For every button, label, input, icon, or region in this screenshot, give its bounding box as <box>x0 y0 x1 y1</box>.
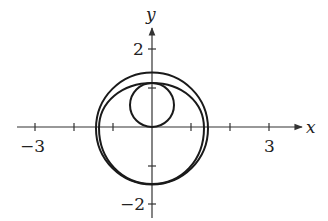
y-tick-label-neg2: −2 <box>120 194 145 214</box>
x-axis-label: x <box>306 117 316 137</box>
plot-area: x y −3 3 2 −2 <box>0 0 328 221</box>
y-axis-label: y <box>145 4 156 24</box>
y-tick-label-2: 2 <box>133 39 144 59</box>
x-tick-label-neg3: −3 <box>20 136 45 156</box>
x-tick-label-3: 3 <box>264 136 275 156</box>
polar-graph: x y −3 3 2 −2 <box>0 0 328 221</box>
